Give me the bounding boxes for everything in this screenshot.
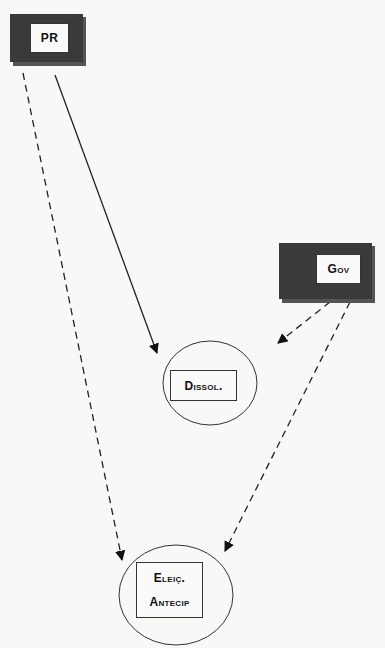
pr-node[interactable]: PR bbox=[10, 14, 86, 66]
edges-layer bbox=[0, 0, 385, 648]
gov-node[interactable]: Gov bbox=[279, 243, 375, 303]
eleic-label-line1: Eleiç. bbox=[154, 571, 185, 585]
pr-label: PR bbox=[41, 31, 58, 45]
dissol-box[interactable]: Dissol. bbox=[170, 370, 237, 401]
dissol-label: Dissol. bbox=[184, 379, 222, 393]
diagram-canvas: PR Gov Dissol. Eleiç. Antecip bbox=[0, 0, 385, 648]
edge-pr-eleic bbox=[23, 73, 122, 560]
eleic-label-line2: Antecip bbox=[149, 595, 189, 609]
edge-gov-dissol bbox=[278, 302, 330, 343]
edge-pr-dissol bbox=[55, 75, 157, 353]
edge-gov-eleic bbox=[225, 302, 350, 551]
gov-label: Gov bbox=[328, 262, 350, 276]
eleic-box[interactable]: Eleiç. Antecip bbox=[136, 562, 203, 618]
